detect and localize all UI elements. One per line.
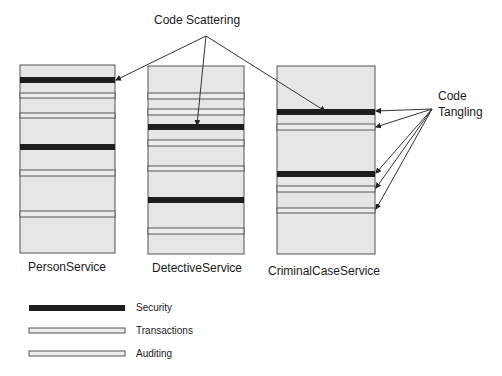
module-label-detective-service: DetectiveService (152, 261, 242, 275)
code-scattering-label: Code Scattering (154, 13, 240, 27)
legend-swatch-security (29, 305, 125, 311)
security-bar (20, 144, 115, 150)
transaction-band (277, 124, 375, 130)
security-bar (277, 171, 375, 177)
legend-label-auditing: Auditing (136, 348, 172, 360)
auditing-band (148, 166, 244, 171)
legend-swatch-auditing (29, 351, 125, 356)
code-tangling-label-line2: Tangling (438, 105, 483, 119)
module-detective-service (148, 66, 244, 254)
auditing-band (277, 208, 375, 213)
legend-swatches (29, 305, 125, 356)
transaction-band (20, 93, 115, 98)
module-person-service (20, 65, 115, 253)
legend-label-transactions: Transactions (136, 325, 193, 337)
security-bar (148, 124, 244, 130)
security-bar (148, 197, 244, 203)
transaction-band (148, 93, 244, 99)
legend-swatch-transactions (29, 328, 125, 333)
module-label-person-service: PersonService (28, 260, 106, 274)
transaction-band (20, 113, 115, 118)
legend-label-security: Security (136, 302, 172, 314)
transaction-band (277, 186, 375, 192)
security-bar (277, 109, 375, 115)
module-label-criminal-case-service: CriminalCaseService (268, 264, 380, 278)
transaction-band (148, 140, 244, 146)
code-tangling-label-line1: Code (438, 89, 467, 103)
module-criminal-case-service (277, 66, 375, 254)
auditing-band (148, 228, 244, 234)
transaction-band (148, 109, 244, 115)
auditing-band (20, 211, 115, 217)
diagram-canvas (0, 0, 502, 376)
tangling-arrows (376, 109, 432, 209)
security-bar (20, 77, 115, 83)
auditing-band (20, 170, 115, 176)
